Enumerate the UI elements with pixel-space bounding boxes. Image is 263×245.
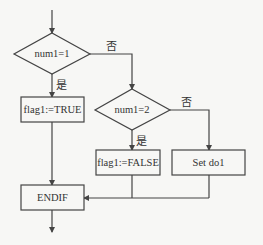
decision1-label: num1=1 xyxy=(34,49,69,60)
d1-yes-label: 是 xyxy=(56,80,67,91)
process-true-label: flag1:=TRUE xyxy=(24,105,82,116)
endif-label: ENDIF xyxy=(37,193,68,204)
d2-yes-label: 是 xyxy=(136,136,147,147)
d1-no-label: 否 xyxy=(106,41,117,52)
process-setdo-label: Set do1 xyxy=(193,158,225,169)
d2-no-label: 否 xyxy=(181,97,192,108)
flowchart-canvas xyxy=(0,0,263,245)
process-false-label: flag1:=FALSE xyxy=(97,158,159,169)
d1-no-arrow xyxy=(90,54,132,89)
decision2-label: num1=2 xyxy=(114,105,149,116)
d2-no-arrow xyxy=(170,110,209,150)
